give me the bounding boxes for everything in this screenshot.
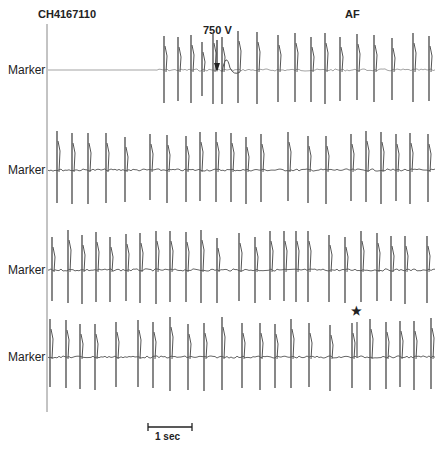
ecg-traces	[0, 0, 442, 449]
baseline-trace-1	[48, 69, 435, 71]
ecg-figure: CH4167110 AF 750 V Marker Marker Marker …	[0, 0, 442, 449]
